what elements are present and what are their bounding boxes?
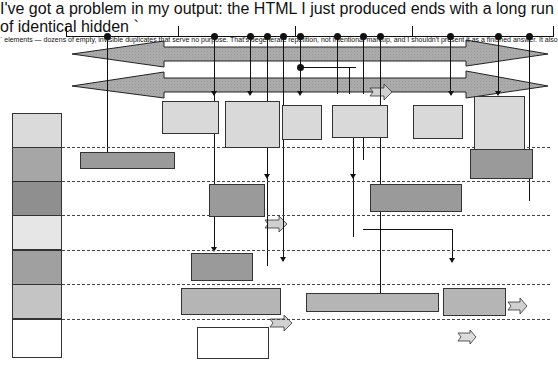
row-level-2: [12, 181, 62, 216]
row-header-keydates: [12, 113, 62, 148]
event-dec-commission-consults-qis4: [181, 288, 281, 315]
event-nov07-ceiops-qis3-report: [191, 253, 253, 281]
band-upper-arrow: [72, 40, 548, 67]
event-mar08-qis4-technical-spec: [306, 293, 439, 312]
event-april-july-qis4-conducted: [443, 288, 506, 316]
event-feb08-econ-amendments: [332, 105, 388, 138]
event-feb08-econ-draft: [282, 105, 322, 140]
row-level-1: [12, 147, 62, 182]
row-level-3: [12, 215, 62, 250]
row-separator: [62, 181, 550, 182]
event-july07-draft-directive: [80, 152, 175, 169]
band-lower-arrow: [72, 71, 548, 98]
event-ep-vote-council-adopts: [474, 96, 525, 150]
hollow-right-arrow-icon: [458, 330, 477, 345]
event-dec07-directive-finalised: [470, 149, 533, 179]
row-separator: [62, 215, 550, 216]
event-dec07-ceops-cps: [209, 184, 265, 217]
row-separator: [62, 250, 550, 251]
event-nov07-econ-exchange: [162, 101, 219, 134]
event-may08-ceops-advice: [370, 184, 462, 212]
row-separator: [62, 284, 550, 285]
event-nov07-fsa-qis4-report: [197, 327, 269, 359]
row-qis-3: [12, 250, 62, 285]
event-july08-econ-vote: [413, 105, 463, 139]
row-separator: [62, 319, 550, 320]
row-fsa: [12, 319, 62, 358]
row-qis-4: [12, 284, 62, 319]
event-dec07-ep-hearing: [225, 101, 280, 148]
